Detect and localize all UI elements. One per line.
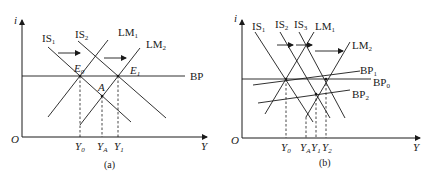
lm2-curve [80, 48, 140, 125]
origin-label: O [231, 134, 239, 146]
lm1-curve [265, 32, 314, 114]
lm1-curve [48, 40, 108, 117]
lm1-label: LM1 [315, 20, 336, 34]
y0-tick-label: Y0 [75, 140, 85, 154]
y-axis-label: i [14, 14, 17, 26]
is2-label: IS2 [75, 28, 89, 42]
x-axis-label: Y [201, 140, 209, 152]
is1-curve [255, 32, 313, 122]
y-axis-label: i [234, 12, 237, 24]
bp0-label: BP0 [373, 76, 390, 90]
panel-a-caption: (a) [104, 159, 115, 171]
bp-label: BP [190, 70, 203, 82]
x-axis-label: Y [413, 141, 421, 153]
is2-label: IS2 [275, 18, 289, 32]
lm1-label: LM1 [118, 26, 139, 40]
panel-a: i Y O BP IS1 IS2 LM1 LM2 E0 E1 A Y0 YA Y… [11, 14, 209, 171]
lm2-label: LM2 [352, 39, 373, 53]
e0-label: E0 [73, 62, 85, 76]
panel-b-caption: (b) [319, 157, 331, 169]
origin-label: O [11, 133, 19, 145]
ya-tick-label: YA [300, 141, 311, 155]
y1-tick-label: Y1 [311, 141, 321, 155]
ya-tick-label: YA [97, 140, 108, 154]
panel-b: i Y O BP1 BP0 BP2 IS1 IS2 IS3 LM1 LM2 [231, 12, 421, 169]
y0-tick-label: Y0 [281, 141, 291, 155]
lm2-label: LM2 [146, 38, 167, 52]
lm2-curve [306, 42, 350, 117]
y1-tick-label: Y1 [114, 140, 124, 154]
is1-label: IS1 [252, 20, 266, 34]
is-lm-bp-diagram: i Y O BP IS1 IS2 LM1 LM2 E0 E1 A Y0 YA Y… [0, 0, 430, 180]
e1-label: E1 [129, 64, 140, 78]
y2-tick-label: Y2 [322, 141, 332, 155]
a-label: A [97, 81, 105, 93]
is2-curve [78, 41, 166, 118]
is3-label: IS3 [294, 18, 308, 32]
is1-label: IS1 [42, 32, 56, 46]
bp2-label: BP2 [352, 88, 369, 102]
